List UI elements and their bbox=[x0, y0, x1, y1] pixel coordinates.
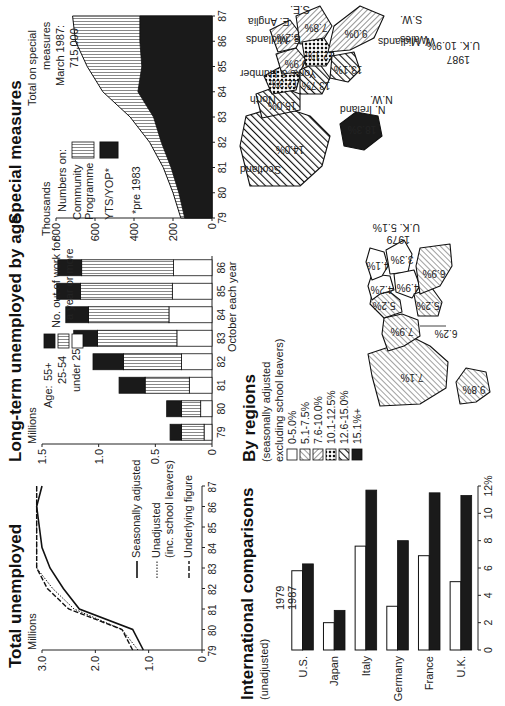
svg-text:0-5.0%: 0-5.0% bbox=[286, 411, 298, 444]
svg-text:E. Anglia: E. Anglia bbox=[248, 16, 290, 28]
svg-text:S.W.: S.W. bbox=[400, 14, 422, 26]
svg-text:10.1-12.5%: 10.1-12.5% bbox=[325, 390, 337, 444]
svg-text:6.2%: 6.2% bbox=[434, 328, 457, 339]
infographic: Total unemployed Millions 01.02.03.07980… bbox=[0, 0, 505, 706]
svg-text:15.1%+: 15.1%+ bbox=[351, 408, 363, 444]
svg-text:1979: 1979 bbox=[386, 234, 410, 246]
svg-text:U.K. 10.9%: U.K. 10.9% bbox=[427, 40, 480, 52]
svg-text:Wales: Wales bbox=[400, 34, 429, 46]
svg-text:S.E.: S.E. bbox=[290, 4, 310, 16]
svg-text:Scotland: Scotland bbox=[240, 164, 281, 176]
svg-text:18.3%: 18.3% bbox=[348, 124, 376, 135]
svg-text:13.7%: 13.7% bbox=[302, 80, 330, 91]
regions-maps: 0-5.0%5.1-7.5%7.6-10.0%10.1-12.5%12.6-15… bbox=[0, 0, 505, 706]
svg-text:1987: 1987 bbox=[446, 54, 470, 66]
svg-text:7.1%: 7.1% bbox=[400, 372, 423, 383]
svg-text:U.K. 5.1%: U.K. 5.1% bbox=[373, 222, 420, 234]
svg-text:9.8%: 9.8% bbox=[462, 384, 485, 395]
svg-text:E. Midlands: E. Midlands bbox=[246, 34, 301, 46]
svg-text:4.1%: 4.1% bbox=[366, 260, 389, 271]
svg-text:N.W.: N.W. bbox=[370, 94, 393, 106]
svg-text:5.1-7.5%: 5.1-7.5% bbox=[299, 402, 311, 444]
svg-text:3.3%: 3.3% bbox=[390, 254, 413, 265]
svg-text:9.9%: 9.9% bbox=[284, 58, 307, 69]
svg-text:7.8%: 7.8% bbox=[304, 22, 327, 33]
svg-text:7.9%: 7.9% bbox=[390, 326, 413, 337]
svg-text:North: North bbox=[250, 94, 276, 106]
svg-text:7.6-10.0%: 7.6-10.0% bbox=[312, 396, 324, 444]
svg-text:9.0%: 9.0% bbox=[344, 28, 367, 39]
svg-text:13.1%: 13.1% bbox=[334, 64, 362, 75]
svg-text:4.9%: 4.9% bbox=[396, 282, 419, 293]
svg-text:5.2%: 5.2% bbox=[416, 300, 439, 311]
svg-text:6.9%: 6.9% bbox=[422, 268, 445, 279]
svg-text:14.0%: 14.0% bbox=[276, 144, 304, 155]
svg-text:12.6-15.0%: 12.6-15.0% bbox=[338, 390, 350, 444]
svg-text:Yorks & Humber: Yorks & Humber bbox=[240, 68, 317, 80]
svg-text:4.2%: 4.2% bbox=[370, 284, 393, 295]
svg-text:5.2%: 5.2% bbox=[372, 300, 395, 311]
